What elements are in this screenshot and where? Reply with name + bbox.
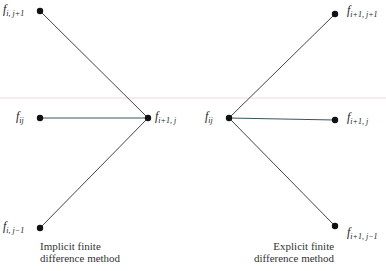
label-sub: ij bbox=[208, 116, 212, 125]
implicit-edge-lower bbox=[40, 118, 148, 228]
label-implicit-f-i-jp1: fi, j+1 bbox=[3, 2, 24, 18]
label-implicit-f-ij: fij bbox=[16, 109, 24, 125]
explicit-caption: Explicit finite difference method bbox=[254, 240, 334, 264]
label-explicit-f-ip1-j: fi+1, j bbox=[347, 110, 368, 126]
label-explicit-f-ij: fij bbox=[205, 109, 213, 125]
label-implicit-f-ip1-j: fi+1, j bbox=[155, 109, 176, 125]
finite-difference-diagram bbox=[0, 0, 386, 271]
explicit-edge-lower bbox=[229, 118, 335, 226]
node-implicit-f-ip1-j bbox=[145, 115, 151, 121]
node-explicit-f-ip1-jm1 bbox=[332, 223, 338, 229]
label-sub: i+1, j bbox=[158, 116, 176, 125]
implicit-caption: Implicit finite difference method bbox=[40, 240, 120, 264]
implicit-caption-line-2: difference method bbox=[40, 252, 120, 264]
explicit-edge-middle bbox=[229, 118, 335, 120]
label-explicit-f-ip1-jm1: fi+1, j−1 bbox=[347, 225, 378, 241]
implicit-caption-line-1: Implicit finite bbox=[40, 240, 120, 252]
node-explicit-f-ip1-jp1 bbox=[332, 11, 338, 17]
label-sub: i, j+1 bbox=[6, 9, 24, 18]
label-sub: ij bbox=[19, 116, 23, 125]
explicit-caption-line-1: Explicit finite bbox=[254, 240, 334, 252]
label-explicit-f-ip1-jp1: fi+1, j+1 bbox=[347, 3, 378, 19]
label-sub: i+1, j+1 bbox=[350, 10, 377, 19]
label-sub: i+1, j−1 bbox=[350, 232, 377, 241]
implicit-edge-upper bbox=[40, 11, 148, 118]
node-implicit-f-i-jp1 bbox=[37, 8, 43, 14]
label-implicit-f-i-jm1: fi, j−1 bbox=[3, 219, 24, 235]
label-sub: i+1, j bbox=[350, 117, 368, 126]
explicit-caption-line-2: difference method bbox=[254, 252, 334, 264]
node-implicit-f-i-jm1 bbox=[37, 225, 43, 231]
label-sub: i, j−1 bbox=[6, 226, 24, 235]
node-explicit-f-ij bbox=[226, 115, 232, 121]
node-implicit-f-ij bbox=[37, 115, 43, 121]
node-explicit-f-ip1-j bbox=[332, 117, 338, 123]
explicit-edge-upper bbox=[229, 14, 335, 118]
